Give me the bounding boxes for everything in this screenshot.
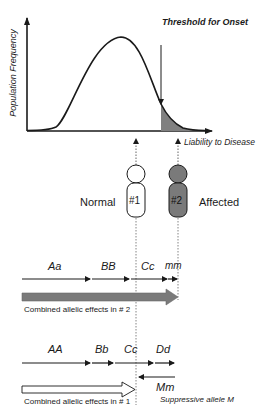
row2-allele-cc: Cc <box>141 260 154 272</box>
row1-allele-bb: Bb <box>95 343 108 355</box>
distribution-curve <box>27 37 205 131</box>
y-axis-label: Population Frequency <box>8 29 18 117</box>
liability-threshold-diagram <box>0 0 270 420</box>
combined-effects-arrow-2 <box>22 289 178 305</box>
row2-allele-mm: mm <box>165 260 182 271</box>
row2-allele-bb: BB <box>101 260 116 272</box>
x-axis-label: Liability to Disease <box>184 137 255 147</box>
individual-1-label: #1 <box>129 195 140 206</box>
individual-2-label: #2 <box>171 195 182 206</box>
threshold-label: Threshold for Onset <box>162 17 248 27</box>
row2-caption: Combined allelic effects in # 2 <box>24 305 130 314</box>
row2-allele-aa: Aa <box>48 260 61 272</box>
affected-label: Affected <box>199 196 239 208</box>
row1-allele-dd: Dd <box>156 343 170 355</box>
individual-2-affected <box>169 165 187 217</box>
combined-effects-arrow-1 <box>22 382 135 397</box>
suppressor-caption: Suppressive allele M <box>160 395 234 404</box>
individual-1-normal <box>127 165 145 217</box>
row1-allele-aa: AA <box>48 343 63 355</box>
row1-allele-cc: Cc <box>124 343 137 355</box>
suppressor-allele-mm: Mm <box>156 381 174 393</box>
normal-label: Normal <box>80 196 115 208</box>
row1-caption: Combined allelic effects in # 1 <box>24 397 130 406</box>
